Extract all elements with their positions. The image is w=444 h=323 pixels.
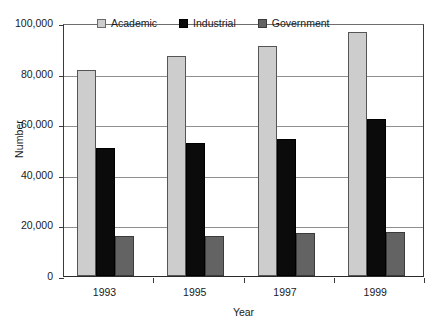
x-axis-tick-label: 1997 [250, 286, 320, 298]
bar-groups [64, 25, 423, 276]
y-axis-tick-label: 20,000 [1, 220, 53, 231]
y-axis-tick-label: 40,000 [1, 170, 53, 181]
bar-industrial-1995 [186, 143, 205, 276]
bar-industrial-1997 [277, 139, 296, 276]
x-axis-tick [244, 278, 245, 283]
y-axis-tick-label: 80,000 [1, 69, 53, 80]
bar-government-1995 [205, 236, 224, 276]
bar-academic-1997 [258, 46, 277, 276]
bar-government-1999 [386, 232, 405, 276]
bar-academic-1995 [167, 56, 186, 276]
x-axis-tick [424, 278, 425, 283]
plot-area [63, 24, 424, 277]
bar-industrial-1999 [367, 119, 386, 276]
legend-item-government[interactable]: Government [258, 18, 330, 29]
legend-item-industrial[interactable]: Industrial [179, 18, 236, 29]
legend-label: Government [272, 18, 330, 29]
legend-item-academic[interactable]: Academic [97, 18, 157, 29]
x-axis-tick-label: 1995 [160, 286, 230, 298]
chart-legend: AcademicIndustrialGovernment [97, 18, 330, 29]
academic-swatch [97, 19, 106, 28]
bar-group [154, 25, 244, 276]
y-axis-tick-label: 100,000 [1, 18, 53, 29]
x-axis-tick [334, 278, 335, 283]
x-axis-tick [153, 278, 154, 283]
x-axis-tick-label: 1999 [340, 286, 410, 298]
bar-group [64, 25, 154, 276]
bar-group [245, 25, 335, 276]
bar-government-1993 [115, 236, 134, 276]
x-axis-tick-label: 1993 [70, 286, 140, 298]
bar-government-1997 [296, 233, 315, 276]
government-swatch [258, 19, 267, 28]
legend-label: Industrial [193, 18, 236, 29]
bar-chart: Number 100,00080,00060,00040,00020,0000 … [0, 0, 444, 323]
bar-group [335, 25, 425, 276]
bar-industrial-1993 [96, 148, 115, 276]
y-axis-tick [59, 278, 64, 279]
bar-academic-1993 [77, 70, 96, 276]
x-axis-title: Year [63, 306, 424, 318]
y-axis-tick-label: 0 [1, 271, 53, 282]
bar-academic-1999 [348, 32, 367, 276]
legend-label: Academic [111, 18, 157, 29]
y-axis-tick-label: 60,000 [1, 119, 53, 130]
y-axis-tick-labels: 100,00080,00060,00040,00020,0000 [0, 0, 53, 323]
industrial-swatch [179, 19, 188, 28]
